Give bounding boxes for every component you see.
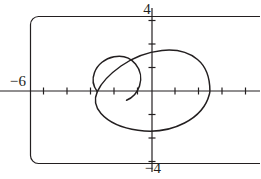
axis-label-bottom: −4 (145, 161, 161, 176)
limacon-inner-loop (93, 56, 141, 100)
axis-label-left: −6 (10, 74, 26, 89)
plot-canvas (0, 0, 260, 179)
axis-label-top: 4 (143, 2, 151, 17)
polar-plot-figure: 4 −6 −4 (0, 0, 260, 179)
bounding-box (31, 17, 261, 164)
